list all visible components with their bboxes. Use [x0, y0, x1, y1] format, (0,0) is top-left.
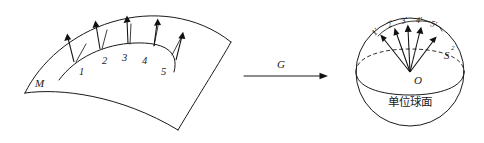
normal-arrowhead-1 [64, 34, 71, 42]
figure-canvas: 1 2 3 4 5 M G [0, 0, 484, 143]
map-arrowhead [320, 73, 329, 79]
surface-right-edge [178, 42, 231, 130]
sphere-image-label-3: 3′ [399, 15, 409, 27]
gauss-map-figure: 1 2 3 4 5 M G [0, 0, 484, 143]
image-arrowhead-4 [416, 27, 423, 34]
surface-patch-group: 1 2 3 4 5 M [25, 16, 231, 131]
surface-tick-3 [130, 24, 131, 44]
normal-vector-5 [176, 36, 182, 60]
surface-point-label-4: 4 [142, 55, 148, 66]
normal-vector-3 [127, 20, 128, 44]
map-arrow-group: G [244, 58, 328, 80]
surface-label-m: M [34, 77, 45, 89]
normal-arrowhead-4 [154, 19, 161, 26]
sphere-label-s: S [444, 49, 450, 61]
image-vector-3 [408, 29, 410, 72]
normal-arrowhead-5 [178, 32, 185, 39]
surface-point-label-5: 5 [161, 66, 166, 77]
sphere-image-label-2: 2′ [385, 18, 396, 30]
surface-point-label-3: 3 [121, 52, 127, 63]
normal-vector-2 [96, 25, 100, 49]
image-vector-1 [383, 38, 410, 72]
sphere-image-label-5: 5′ [430, 18, 439, 29]
surface-point-label-1: 1 [79, 66, 84, 77]
sphere-image-label-4: 4′ [416, 15, 423, 25]
sphere-caption-cjk: 单位球面 [388, 95, 432, 109]
surface-outer-top-edge [25, 16, 231, 93]
sphere-center-label-o: O [414, 74, 422, 86]
sphere-label-s-superscript: 2 [451, 44, 455, 52]
sphere-equator-front [356, 72, 464, 95]
surface-tick-2 [102, 30, 107, 49]
unit-sphere-group: 1′ 2′ 3′ 4′ 5′ S 2 O 单位球面 [356, 15, 464, 126]
image-arrowhead-2 [394, 28, 400, 36]
surface-point-label-2: 2 [102, 55, 108, 66]
surface-bottom-edge [25, 92, 178, 130]
map-arrow-label-g: G [277, 58, 285, 70]
image-arrowhead-3 [405, 25, 412, 32]
surface-tick-5 [172, 36, 182, 55]
sphere-image-vectors [380, 25, 437, 72]
